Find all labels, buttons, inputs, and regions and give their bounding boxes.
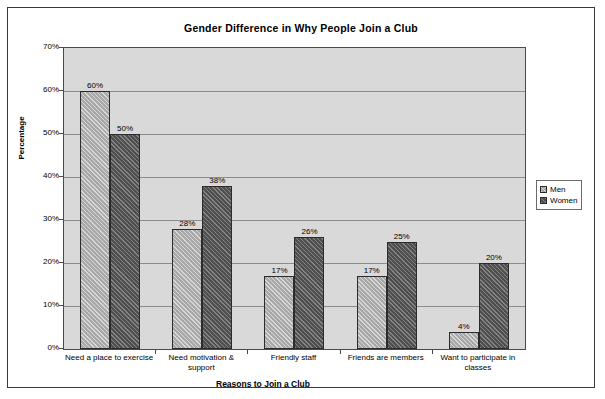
x-axis-category-label: Friendly staff	[247, 353, 339, 363]
bar-value-label: 25%	[394, 232, 410, 241]
legend-swatch-icon	[540, 186, 547, 193]
y-axis-tick-label: 70%	[33, 43, 59, 51]
bar-men: 60%	[80, 91, 110, 349]
x-axis-tick-mark	[155, 350, 156, 354]
bar-women: 20%	[479, 263, 509, 349]
chart-frame: Gender Difference in Why People Join a C…	[7, 7, 595, 388]
x-axis-tick-mark	[340, 350, 341, 354]
y-axis-tick-mark	[59, 262, 63, 263]
y-axis-tick-mark	[59, 176, 63, 177]
y-axis-tick-mark	[59, 90, 63, 91]
bar-women: 38%	[202, 186, 232, 349]
y-axis-tick-mark	[59, 47, 63, 48]
x-axis-tick-mark	[247, 350, 248, 354]
y-axis-tick-label: 10%	[33, 301, 59, 309]
chart-legend: MenWomen	[536, 180, 582, 210]
legend-item-women[interactable]: Women	[540, 195, 577, 206]
y-axis-tick-mark	[59, 219, 63, 220]
y-axis-tick-label: 50%	[33, 129, 59, 137]
bar-value-label: 60%	[87, 81, 103, 90]
y-axis-tick-label: 0%	[33, 344, 59, 352]
bar-women: 50%	[110, 134, 140, 349]
x-axis-category-label: Need a place to exercise	[63, 353, 155, 363]
y-axis-tick-mark	[59, 305, 63, 306]
bar-value-label: 17%	[364, 266, 380, 275]
bar-value-label: 20%	[486, 253, 502, 262]
x-axis-category-label: Want to participate in classes	[432, 353, 524, 373]
x-axis-category-labels: Need a place to exerciseNeed motivation …	[63, 353, 526, 381]
y-axis-tick-label: 40%	[33, 172, 59, 180]
x-axis-category-label: Friends are members	[340, 353, 432, 363]
bar-men: 17%	[357, 276, 387, 349]
legend-item-men[interactable]: Men	[540, 184, 577, 195]
bar-value-label: 4%	[458, 322, 470, 331]
bar-women: 25%	[387, 242, 417, 350]
x-axis-category-label: Need motivation & support	[155, 353, 247, 373]
bar-group: 4%20%	[433, 48, 525, 349]
y-axis-tick-label: 30%	[33, 215, 59, 223]
y-axis-tick-label: 60%	[33, 86, 59, 94]
y-axis-tick-labels: 70%60%50%40%30%20%10%0%	[28, 8, 59, 399]
bar-women: 26%	[294, 237, 324, 349]
y-axis-tick-mark	[59, 348, 63, 349]
x-axis-title: Reasons to Join a Club	[28, 379, 498, 389]
bar-value-label: 28%	[179, 219, 195, 228]
bar-value-label: 50%	[117, 124, 133, 133]
legend-label: Men	[550, 184, 566, 195]
bar-men: 4%	[449, 332, 479, 349]
bar-group: 28%38%	[156, 48, 248, 349]
bar-men: 28%	[172, 229, 202, 349]
bar-group: 17%25%	[341, 48, 433, 349]
bar-group: 17%26%	[248, 48, 340, 349]
y-axis-title: Percentage	[17, 146, 26, 160]
plot-area: 60%50%28%38%17%26%17%25%4%20%	[63, 47, 526, 350]
y-axis-tick-mark	[59, 133, 63, 134]
x-axis-tick-mark	[432, 350, 433, 354]
legend-swatch-icon	[540, 197, 547, 204]
y-axis-tick-label: 20%	[33, 258, 59, 266]
bar-value-label: 17%	[271, 266, 287, 275]
bar-value-label: 26%	[301, 227, 317, 236]
bar-group: 60%50%	[64, 48, 156, 349]
chart-title: Gender Difference in Why People Join a C…	[8, 22, 594, 34]
bar-men: 17%	[264, 276, 294, 349]
legend-label: Women	[550, 195, 577, 206]
bar-value-label: 38%	[209, 176, 225, 185]
